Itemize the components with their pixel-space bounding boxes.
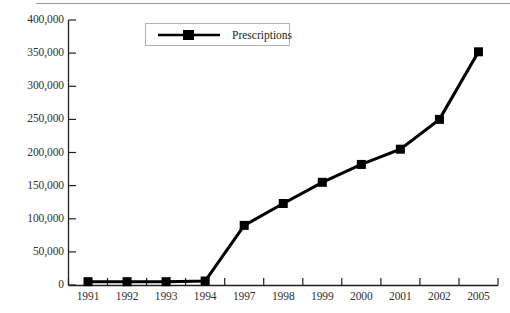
x-tick-label: 1999: [311, 291, 334, 303]
line-chart-figure: 400,000 350,000 300,000 250,000 200,000 …: [0, 0, 510, 313]
x-tick-label: 1993: [155, 291, 178, 303]
x-tick-label: 1992: [116, 291, 139, 303]
legend-entry-label: Prescriptions: [232, 29, 292, 41]
x-tick-label: 2000: [350, 291, 373, 303]
x-tick-label: 2005: [467, 291, 490, 303]
line-with-square-marker-icon: [158, 29, 220, 41]
x-axis-tick-labels: 1991199219931994199719981999200020012002…: [0, 0, 510, 313]
chart-legend: Prescriptions: [145, 23, 290, 46]
x-tick-label: 1998: [272, 291, 295, 303]
x-tick-label: 2001: [389, 291, 412, 303]
x-tick-label: 2002: [428, 291, 451, 303]
x-tick-label: 1991: [77, 291, 100, 303]
x-tick-label: 1994: [194, 291, 217, 303]
x-tick-label: 1997: [233, 291, 256, 303]
